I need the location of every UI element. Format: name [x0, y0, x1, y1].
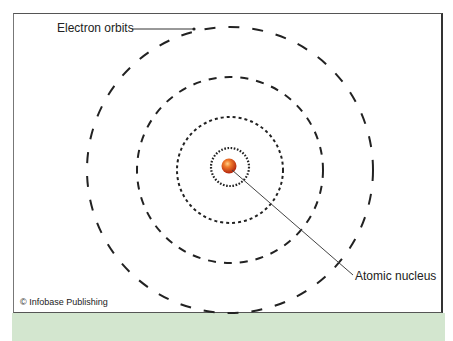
atom-diagram — [0, 0, 453, 341]
nucleus — [222, 159, 237, 174]
nucleus-leader — [232, 170, 353, 275]
atomic-nucleus-label: Atomic nucleus — [355, 269, 436, 283]
copyright-credit: © Infobase Publishing — [20, 297, 108, 307]
electron-orbits-label: Electron orbits — [57, 21, 134, 35]
electron-dot — [192, 27, 195, 30]
